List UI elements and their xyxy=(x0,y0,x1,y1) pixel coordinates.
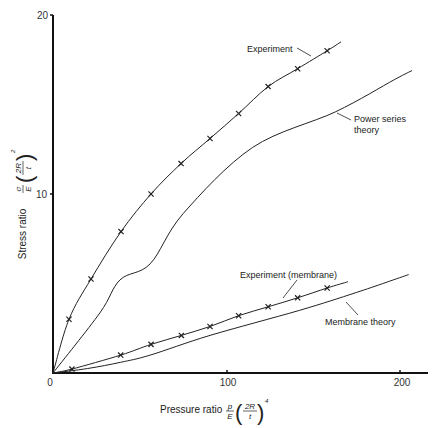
x-marker-icon xyxy=(295,295,300,300)
y-exponent: 2 xyxy=(10,149,16,154)
x-marker-icon xyxy=(148,342,153,347)
label-membrane-theory: Membrane theory xyxy=(325,317,396,327)
x-tick-label-100: 100 xyxy=(220,377,237,388)
y-paren-left: ( xyxy=(12,175,37,183)
x-marker-icon xyxy=(207,324,212,329)
x-marker-icon xyxy=(207,136,212,141)
x-exponent: 4 xyxy=(265,398,269,404)
chart-canvas: 20 10 0 100 200 Experiment Power series … xyxy=(0,0,439,428)
x-axis-label: Pressure ratio p E ( 2R t ) 4 xyxy=(160,398,269,425)
x-tick-label-200: 200 xyxy=(394,377,411,388)
x-marker-icon xyxy=(236,111,241,116)
x-paren-left: ( xyxy=(235,400,243,425)
y-frac-den: E xyxy=(24,186,33,192)
y-paren-den: t xyxy=(24,166,33,169)
label-experiment: Experiment xyxy=(247,44,293,54)
x-marker-icon xyxy=(66,317,71,322)
x-marker-icon xyxy=(179,333,184,338)
x-marker-icon xyxy=(325,48,330,53)
x-marker-icon xyxy=(118,353,123,358)
x-paren-num: 2R xyxy=(244,402,255,411)
x-marker-icon xyxy=(236,313,241,318)
x-marker-icon xyxy=(266,304,271,309)
label-power-series-2: theory xyxy=(354,125,380,135)
x-marker-icon xyxy=(295,66,300,71)
leader-experiment-membrane xyxy=(283,280,297,298)
x-frac-num: p xyxy=(227,402,233,411)
y-paren-num: 2R xyxy=(14,163,23,174)
series-line-experiment xyxy=(53,42,341,373)
y-tick-label-10: 10 xyxy=(36,189,48,200)
y-axis-label: Stress ratio σ E ( 2R t ) 2 xyxy=(10,149,37,259)
x-marker-icon xyxy=(88,276,93,281)
leader-power-series xyxy=(337,113,351,120)
x-marker-icon xyxy=(178,161,183,166)
y-frac-num: σ xyxy=(14,185,23,191)
x-frac-den: E xyxy=(227,412,233,421)
x-tick-label-0: 0 xyxy=(47,377,53,388)
x-marker-icon xyxy=(325,285,330,290)
label-power-series-1: Power series xyxy=(354,114,407,124)
x-axis-label-text: Pressure ratio xyxy=(160,404,223,415)
label-experiment-membrane: Experiment (membrane) xyxy=(240,270,337,280)
leader-membrane-theory xyxy=(346,302,358,315)
y-tick-label-20: 20 xyxy=(37,10,49,21)
y-axis-label-text: Stress ratio xyxy=(17,208,28,259)
x-marker-icon xyxy=(266,84,271,89)
x-marker-icon xyxy=(148,191,153,196)
leader-experiment xyxy=(297,48,311,56)
x-paren-right: ) xyxy=(257,400,264,425)
marker-layer xyxy=(66,48,329,371)
x-paren-den: t xyxy=(249,412,252,421)
y-paren-right: ) xyxy=(12,154,37,161)
series-line-experiment-membrane xyxy=(53,282,348,373)
x-marker-icon xyxy=(118,229,123,234)
